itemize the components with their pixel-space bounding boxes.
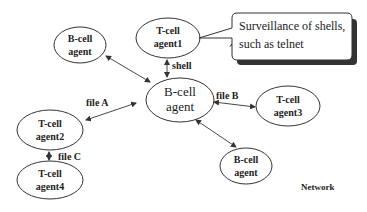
node-tcell-agent4: T-cell agent4 <box>17 161 83 199</box>
node-bcell-agent-bottom: B-cell agent <box>220 148 272 184</box>
node-label-line1: T-cell <box>156 25 180 36</box>
edge-center-to-bcell-bottom <box>196 120 236 147</box>
node-label-line2: agent1 <box>154 38 182 49</box>
edge-label-file-b: file B <box>216 90 239 101</box>
node-label-line2: agent3 <box>274 107 302 118</box>
network-label: Network <box>301 182 335 192</box>
callout-bubble: Surveillance of shells, such as telnet <box>199 13 357 65</box>
edge-label-file-c: file C <box>58 151 81 162</box>
node-bcell-agent-center: B-cell agent <box>146 78 214 122</box>
node-label-line1: B-cell <box>68 33 93 44</box>
node-label-line2: agent <box>166 99 195 114</box>
callout-text-line1: Surveillance of shells, <box>239 19 345 33</box>
edge-label-shell: shell <box>172 60 192 71</box>
node-label-line1: T-cell <box>38 118 62 129</box>
node-label-line1: T-cell <box>276 94 300 105</box>
node-label-line2: agent <box>234 167 258 178</box>
node-label-line1: B-cell <box>234 154 259 165</box>
node-tcell-agent1: T-cell agent1 <box>136 18 200 58</box>
node-label-line2: agent <box>68 46 92 57</box>
node-bcell-agent-topleft: B-cell agent <box>54 27 106 63</box>
node-tcell-agent2: T-cell agent2 <box>17 110 83 150</box>
node-label-line1: B-cell <box>164 84 196 99</box>
edge-center-to-tcell-agent3 <box>214 102 255 107</box>
edge-label-file-a: file A <box>86 97 109 108</box>
node-label-line2: agent4 <box>36 181 64 192</box>
node-label-line1: T-cell <box>38 168 62 179</box>
immune-agent-network-diagram: shell file A file B file C B-cell agent … <box>0 0 367 212</box>
edge-bcell-topleft-to-center <box>106 56 150 82</box>
callout-text-line2: such as telnet <box>239 37 304 51</box>
node-tcell-agent3: T-cell agent3 <box>256 86 320 126</box>
node-label-line2: agent2 <box>36 131 64 142</box>
